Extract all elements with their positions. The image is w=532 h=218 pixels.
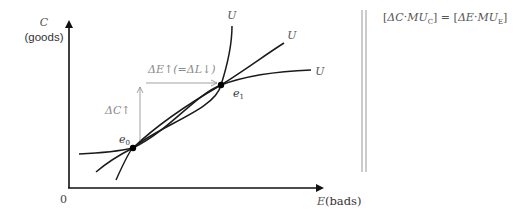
point-e1 — [218, 82, 224, 88]
delta-c-label: ΔC↑ — [104, 104, 131, 117]
middle-curve-label: U — [287, 29, 297, 42]
eq-rhs-close: ] — [503, 11, 507, 24]
eq-rhs-delta: ΔE — [458, 11, 474, 24]
point-e1-label: e1 — [233, 87, 244, 101]
point-e0-label: e0 — [119, 133, 130, 147]
delta-e-label: ΔE↑(=ΔL↓) — [147, 63, 215, 76]
point-e0 — [130, 145, 136, 151]
x-axis-desc-label: (bads) — [325, 194, 361, 208]
diagram-svg: C (goods) 0 E (bads) U U U e0 e1 ΔC↑ ΔE↑… — [0, 0, 532, 218]
eq-equals: = — [437, 11, 453, 24]
eq-rhs-mu: MU — [477, 11, 498, 24]
origin-label: 0 — [60, 193, 67, 206]
flat-curve-label: U — [315, 65, 325, 78]
eq-lhs-delta: ΔC — [387, 11, 403, 24]
x-axis-var-label: E — [316, 195, 325, 208]
eq-lhs-mu: MU — [407, 11, 428, 24]
equilibrium-equation: [ΔC·MUC] = [ΔE·MUE] — [383, 11, 507, 26]
y-axis-var-label: C — [40, 16, 49, 29]
steep-curve — [116, 26, 232, 180]
diagram-canvas: C (goods) 0 E (bads) U U U e0 e1 ΔC↑ ΔE↑… — [0, 0, 532, 218]
y-axis-desc-label: (goods) — [25, 31, 64, 43]
steep-curve-label: U — [227, 9, 237, 22]
